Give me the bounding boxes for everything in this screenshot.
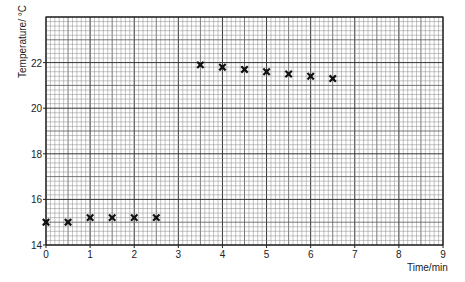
y-tick-label: 16 <box>31 194 43 205</box>
x-tick-label: 9 <box>440 249 446 260</box>
y-axis-label: Temperature/ °C <box>17 0 28 92</box>
x-tick-label: 8 <box>396 249 402 260</box>
x-axis-label: Time/min <box>407 262 448 273</box>
y-tick-label: 14 <box>31 240 43 251</box>
x-tick-label: 6 <box>308 249 314 260</box>
temperature-time-graph: 01234567891416182022 <box>0 0 465 282</box>
grid-lines <box>46 17 443 245</box>
x-tick-label: 0 <box>43 249 49 260</box>
y-tick-label: 20 <box>31 103 43 114</box>
x-tick-label: 4 <box>220 249 226 260</box>
x-tick-label: 5 <box>264 249 270 260</box>
y-tick-label: 18 <box>31 149 43 160</box>
x-tick-label: 2 <box>131 249 137 260</box>
x-tick-label: 1 <box>87 249 93 260</box>
y-tick-label: 22 <box>31 58 43 69</box>
x-tick-label: 7 <box>352 249 358 260</box>
x-tick-label: 3 <box>176 249 182 260</box>
